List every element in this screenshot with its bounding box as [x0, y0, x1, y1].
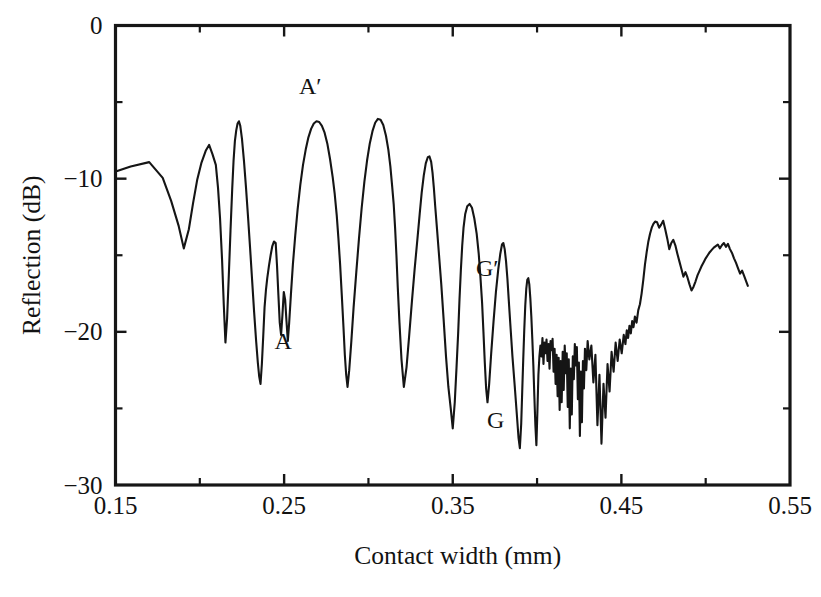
x-tick-label-1: 0.25: [262, 492, 306, 519]
y-tick-label-2: −20: [63, 318, 102, 345]
reflection-line-chart: 0.150.250.350.450.55 0−10−20−30 A′AG′G C…: [0, 0, 821, 597]
y-tick-label-0: 0: [90, 12, 103, 39]
x-tick-label-4: 0.55: [768, 492, 812, 519]
x-tick-label-3: 0.45: [600, 492, 644, 519]
figure-root: 0.150.250.350.450.55 0−10−20−30 A′AG′G C…: [0, 0, 821, 597]
curve-annotations: A′AG′G: [275, 73, 505, 434]
x-axis-title: Contact width (mm): [354, 541, 561, 570]
annotation-g-prime: G′: [476, 255, 499, 281]
y-tick-label-1: −10: [63, 165, 102, 192]
annotation-g: G: [487, 407, 504, 433]
reflection-data-curve: [117, 119, 748, 448]
x-axis-tick-labels: 0.150.250.350.450.55: [94, 492, 812, 519]
annotation-a: A: [275, 328, 293, 354]
y-axis-major-ticks: [116, 179, 791, 332]
x-tick-label-2: 0.35: [431, 492, 475, 519]
y-axis-minor-ticks: [116, 102, 791, 408]
y-axis-tick-labels: 0−10−20−30: [63, 12, 102, 499]
y-axis-title: Reflection (dB): [17, 176, 46, 335]
y-tick-label-3: −30: [63, 472, 102, 499]
annotation-a-prime: A′: [299, 73, 322, 99]
data-curve-group: [117, 119, 748, 448]
